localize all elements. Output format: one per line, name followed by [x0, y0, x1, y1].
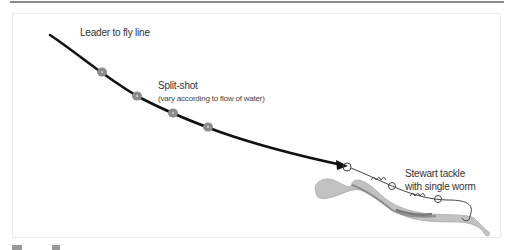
- caption-fragment: [52, 245, 60, 250]
- split-shot-label: Split-shot: [158, 80, 198, 92]
- leader-label: Leader to fly line: [80, 27, 150, 39]
- caption-fragment: [12, 245, 22, 250]
- fishing-rig-diagram: [0, 0, 514, 250]
- tackle-label-line1: Stewart tackle: [405, 168, 465, 180]
- split-shot-note: (vary according to flow of water): [158, 93, 265, 105]
- tackle-label-line2: with single worm: [405, 181, 476, 193]
- arrow-icon: [336, 160, 348, 170]
